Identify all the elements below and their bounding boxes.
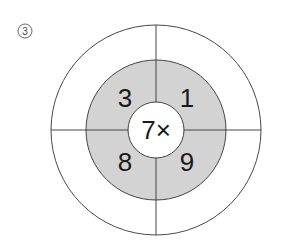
quadrant-top-left: 3 — [118, 83, 132, 113]
problem-number-badge: 3 — [18, 24, 32, 38]
multiplication-wheel: 3 3 1 8 9 7× — [0, 0, 285, 240]
center-operator: 7× — [141, 115, 171, 145]
svg-text:3: 3 — [22, 26, 28, 37]
quadrant-bottom-left: 8 — [118, 147, 132, 177]
quadrant-top-right: 1 — [180, 83, 194, 113]
quadrant-bottom-right: 9 — [180, 147, 194, 177]
